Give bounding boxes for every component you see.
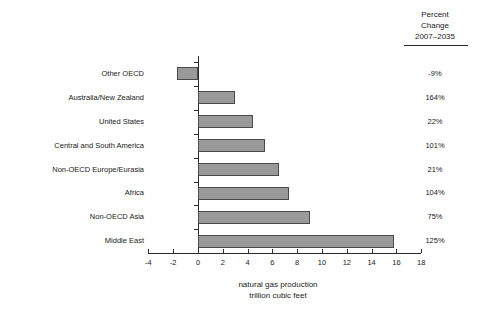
percent-change-value: 75% [398,212,472,221]
percent-change-value: -9% [398,69,472,78]
percent-change-column: Percent Change 2007–2035 -9%164%22%101%2… [398,0,492,321]
x-axis-tick [198,249,199,253]
x-axis-title-line-1: natural gas production [198,279,358,290]
x-axis-title: natural gas production trillion cubic fe… [198,279,358,301]
category-axis-tick [194,229,198,230]
category-axis-tick [194,86,198,87]
x-axis-tick-label: 2 [213,258,233,267]
x-axis-tick [223,249,224,253]
bar [198,139,265,152]
x-axis-tick [248,249,249,253]
x-axis-tick [173,249,174,253]
x-axis-title-line-2: trillion cubic feet [198,290,358,301]
bar [198,187,289,200]
x-axis-tick [322,249,323,253]
percent-change-value: 22% [398,117,472,126]
bar [198,115,253,128]
x-axis-tick-label: 10 [312,258,332,267]
bar [198,91,235,104]
percent-change-value: 164% [398,93,472,102]
x-axis-tick-label: 4 [238,258,258,267]
bar-chart: Other OECDAustralia/New ZealandUnited St… [0,0,492,321]
x-axis-tick [272,249,273,253]
x-axis-tick-label: 12 [337,258,357,267]
category-axis-tick [194,182,198,183]
percent-change-value: 21% [398,165,472,174]
x-axis-tick [148,249,149,253]
x-axis-tick [372,249,373,253]
percent-change-value: 125% [398,236,472,245]
x-axis-tick-label: -4 [138,258,158,267]
category-axis-tick [194,62,198,63]
x-axis-tick-label: 14 [362,258,382,267]
bar [198,211,310,224]
x-axis-tick-label: 8 [287,258,307,267]
category-axis-tick [194,205,198,206]
percent-change-header-line-1: Percent [398,9,472,20]
percent-change-rule [404,45,468,46]
x-axis-tick-label: 6 [262,258,282,267]
category-axis-tick [194,158,198,159]
percent-change-value: 104% [398,188,472,197]
percent-change-header: Percent Change 2007–2035 [398,9,472,42]
x-axis-tick [297,249,298,253]
bar [198,235,394,248]
x-axis-tick-label: -2 [163,258,183,267]
bar [177,67,198,80]
category-axis-tick [194,110,198,111]
percent-change-value: 101% [398,141,472,150]
percent-change-header-line-2: Change [398,20,472,31]
x-axis-tick [347,249,348,253]
category-axis-tick [194,134,198,135]
percent-change-header-line-3: 2007–2035 [398,31,472,42]
x-axis-line [148,253,421,254]
bar [198,163,279,176]
x-axis-tick-label: 0 [188,258,208,267]
